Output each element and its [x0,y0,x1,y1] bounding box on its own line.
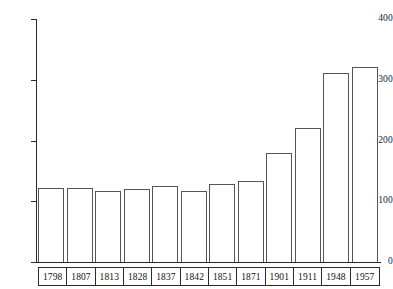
x-axis-label-cell: 1901 [266,268,294,285]
x-axis-label-cell: 1851 [209,268,237,285]
x-axis-label-cell: 1842 [181,268,209,285]
bar [266,153,292,262]
x-axis-label-cell: 1813 [96,268,124,285]
chart-figure: 0100200300400 17981807181318281837184218… [0,0,393,289]
x-axis-label-cell: 1948 [322,268,350,285]
x-axis-label-cell: 1871 [237,268,265,285]
bar [38,188,64,262]
x-axis-label-cell: 1957 [351,268,379,285]
x-axis-label-cell: 1807 [67,268,95,285]
bar-series [0,0,393,289]
bar [181,191,207,262]
bar [323,73,349,262]
bar [238,181,264,262]
bar [95,191,121,262]
bar [352,67,378,262]
x-axis-label-row: 1798180718131828183718421851187119011911… [38,267,380,286]
x-axis-label-cell: 1798 [39,268,67,285]
bar [124,189,150,262]
bar [152,186,178,262]
x-axis-label-cell: 1911 [294,268,322,285]
bar [295,128,321,262]
bar [67,188,93,262]
x-axis-label-cell: 1828 [124,268,152,285]
bar [209,184,235,262]
x-axis-label-cell: 1837 [152,268,180,285]
plot-area: 0100200300400 [0,0,393,289]
